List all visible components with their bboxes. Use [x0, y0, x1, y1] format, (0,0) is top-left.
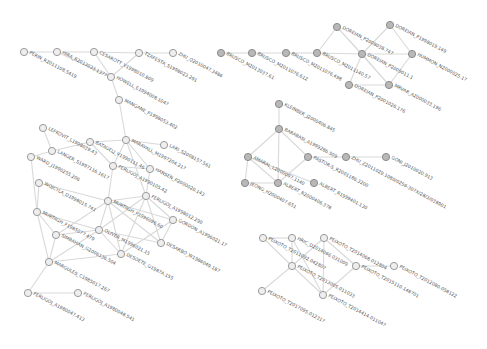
node-circle-icon[interactable] — [160, 141, 167, 148]
node-circle-icon[interactable] — [241, 179, 248, 186]
graph-node[interactable]: DESOETE_G1987A.155 — [117, 250, 174, 282]
node-circle-icon[interactable] — [45, 258, 52, 265]
node-label: MARGULES_C1985017.267 — [53, 260, 110, 294]
node-circle-icon[interactable] — [117, 250, 124, 257]
node-circle-icon[interactable] — [345, 81, 352, 88]
node-circle-icon[interactable] — [157, 239, 164, 246]
node-circle-icon[interactable] — [382, 153, 389, 160]
node-circle-icon[interactable] — [53, 48, 60, 55]
node-circle-icon[interactable] — [135, 49, 142, 56]
node-label: PEIXOTO_T2012080.058122 — [398, 264, 458, 300]
node-circle-icon[interactable] — [24, 289, 31, 296]
node-circle-icon[interactable] — [109, 162, 116, 169]
graph-node[interactable]: HUMMON_N2000025.17 — [408, 50, 467, 83]
node-circle-icon[interactable] — [275, 125, 282, 132]
node-circle-icon[interactable] — [386, 21, 393, 28]
node-circle-icon[interactable] — [95, 226, 102, 233]
node-circle-icon[interactable] — [320, 234, 327, 241]
node-circle-icon[interactable] — [275, 100, 282, 107]
edge — [37, 183, 39, 212]
node-label: PEIXOTO_T2014414.011047 — [327, 293, 387, 329]
nodes-layer: PERIN_R2011108.5419HIRA_R2013033.1377CES… — [20, 21, 467, 328]
node-label: DOREIAN_P1998019.149 — [394, 23, 447, 55]
node-circle-icon[interactable] — [288, 262, 295, 269]
node-label: PEIXOTO_T2017095.012317 — [266, 289, 326, 325]
graph-node[interactable]: MURTAGH_F1996096.60 — [104, 197, 163, 230]
edge — [108, 201, 121, 254]
node-circle-icon[interactable] — [35, 179, 42, 186]
node-circle-icon[interactable] — [352, 262, 359, 269]
node-circle-icon[interactable] — [74, 289, 81, 296]
graph-node[interactable]: DOREIAN_P1998019.149 — [386, 21, 447, 55]
node-circle-icon[interactable] — [33, 208, 40, 215]
node-circle-icon[interactable] — [39, 124, 46, 131]
node-label: DESOETE_G1987A.155 — [125, 252, 174, 282]
node-circle-icon[interactable] — [27, 153, 34, 160]
node-circle-icon[interactable] — [342, 153, 349, 160]
edge — [248, 129, 279, 157]
edge — [108, 166, 113, 201]
edge — [119, 100, 126, 140]
node-circle-icon[interactable] — [142, 192, 149, 199]
edge — [262, 266, 292, 291]
node-circle-icon[interactable] — [259, 234, 266, 241]
node-label: HUMMON_N2000025.17 — [416, 52, 468, 83]
node-label: FERLIGOJ_A1980048.541 — [82, 291, 135, 323]
node-label: LARI_S2008157.561 — [168, 143, 212, 170]
node-circle-icon[interactable] — [258, 287, 265, 294]
edge — [28, 262, 49, 293]
node-circle-icon[interactable] — [48, 147, 55, 154]
node-label: MANGANE_P1998053.402 — [123, 98, 178, 131]
node-circle-icon[interactable] — [107, 73, 114, 80]
node-circle-icon[interactable] — [310, 179, 317, 186]
node-circle-icon[interactable] — [333, 23, 340, 30]
node-label: DESARBO_W1986049.187 — [165, 241, 221, 274]
node-circle-icon[interactable] — [288, 234, 295, 241]
node-circle-icon[interactable] — [169, 49, 176, 56]
network-diagram: PERIN_R2011108.5419HIRA_R2013033.1377CES… — [0, 0, 487, 349]
graph-node[interactable]: PEIXOTO_T2012080.058122 — [390, 262, 457, 299]
node-circle-icon[interactable] — [52, 231, 59, 238]
node-circle-icon[interactable] — [122, 136, 129, 143]
node-circle-icon[interactable] — [217, 49, 224, 56]
node-circle-icon[interactable] — [248, 49, 255, 56]
node-circle-icon[interactable] — [90, 48, 97, 55]
node-circle-icon[interactable] — [313, 49, 320, 56]
node-circle-icon[interactable] — [244, 153, 251, 160]
node-circle-icon[interactable] — [146, 165, 153, 172]
node-label: HOWELL_E1994008.1047 — [115, 75, 169, 108]
graph-node[interactable]: DESARBO_W1986049.187 — [157, 239, 221, 274]
edge — [278, 129, 279, 183]
graph-node[interactable]: BRUSCO_M2011076.498 — [282, 49, 342, 82]
node-circle-icon[interactable] — [86, 138, 93, 145]
node-label: HANSEN_P2000020.143 — [154, 167, 205, 198]
node-circle-icon[interactable] — [304, 153, 311, 160]
graph-node[interactable]: ZHU_Q2010047.3486 — [169, 49, 223, 79]
node-circle-icon[interactable] — [20, 48, 27, 55]
edge — [317, 27, 337, 53]
graph-node[interactable]: WOJCYLA_D1998015.741 — [35, 179, 97, 213]
graph-node[interactable]: MARAVALL_M1997204.217 — [122, 136, 186, 172]
node-circle-icon[interactable] — [104, 197, 111, 204]
node-circle-icon[interactable] — [282, 49, 289, 56]
node-circle-icon[interactable] — [408, 50, 415, 57]
node-circle-icon[interactable] — [358, 50, 365, 57]
node-circle-icon[interactable] — [385, 81, 392, 88]
node-circle-icon[interactable] — [115, 96, 122, 103]
node-circle-icon[interactable] — [319, 291, 326, 298]
node-circle-icon[interactable] — [169, 216, 176, 223]
graph-canvas: PERIN_R2011108.5419HIRA_R2013033.1377CES… — [0, 0, 487, 349]
graph-node[interactable]: PEIXOTO_T2017095.012317 — [258, 287, 325, 324]
node-circle-icon[interactable] — [390, 262, 397, 269]
node-label: WOJCYLA_D1998015.741 — [43, 181, 97, 213]
node-circle-icon[interactable] — [274, 179, 281, 186]
